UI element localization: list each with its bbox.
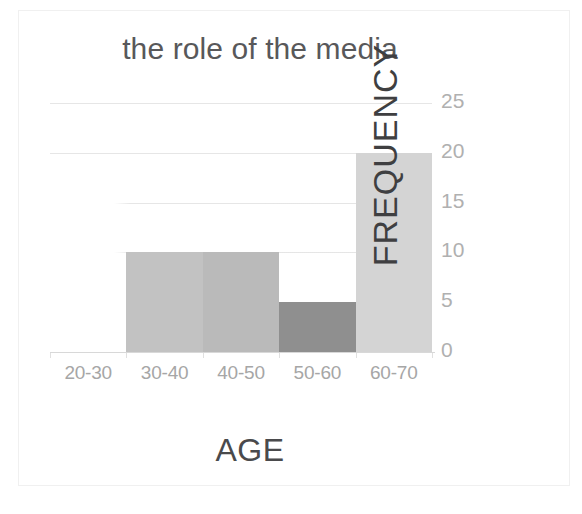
y-tick-label-15: 15: [441, 189, 475, 213]
x-tick-3: [279, 353, 280, 358]
x-tick-label-20-30: 20-30: [50, 362, 126, 384]
y-tick-label-5: 5: [441, 288, 475, 312]
x-tick-0: [50, 353, 51, 358]
y-tick-label-25: 25: [441, 89, 475, 113]
y-axis-title: FREQUENCY: [366, 30, 406, 280]
bar-50-60: [279, 302, 355, 352]
x-tick-5: [432, 353, 433, 358]
x-axis-title: AGE: [0, 432, 500, 469]
x-tick-label-50-60: 50-60: [279, 362, 355, 384]
x-axis-line: [50, 352, 435, 353]
bar-40-50: [203, 252, 279, 352]
bar-30-40: [126, 252, 202, 352]
x-tick-label-30-40: 30-40: [126, 362, 202, 384]
x-tick-1: [126, 353, 127, 358]
x-tick-2: [203, 353, 204, 358]
x-tick-label-60-70: 60-70: [356, 362, 432, 384]
y-tick-label-0: 0: [441, 338, 475, 362]
y-tick-label-10: 10: [441, 238, 475, 262]
x-axis-tick-labels: 20-3030-4040-5050-6060-70: [50, 362, 432, 392]
x-tick-4: [356, 353, 357, 358]
y-tick-label-20: 20: [441, 139, 475, 163]
x-tick-label-40-50: 40-50: [203, 362, 279, 384]
bar-chart-figure: the role of the media 20-3030-4040-5050-…: [0, 0, 582, 514]
